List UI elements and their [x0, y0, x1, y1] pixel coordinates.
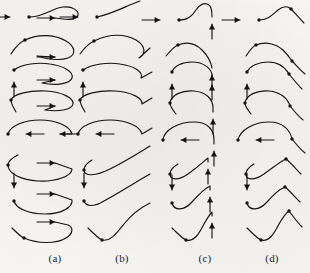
curve-panel-b-row2: [80, 35, 150, 58]
curve-panel-b-row5: [76, 120, 152, 137]
curve-panel-c-row1: [142, 4, 215, 39]
entry-arrow-icon-head: [5, 14, 10, 20]
curve-panel-c-row6: [168, 158, 211, 184]
exit-arrow-icon-head: [50, 191, 55, 197]
control-point-dot: [161, 138, 164, 141]
curve-stroke: [247, 187, 285, 209]
entry-arrow-icon-head: [11, 82, 17, 87]
curve-tail-stroke: [292, 139, 305, 153]
curve-stroke: [245, 91, 290, 114]
curve-stroke: [88, 203, 150, 240]
entry-arrow-icon-head: [80, 82, 86, 87]
control-point-dot: [27, 15, 30, 18]
curve-panel-a-row3: [11, 63, 72, 97]
curve-stroke: [12, 222, 72, 243]
control-point-dot: [284, 157, 287, 160]
curve-panel-a-row1: [0, 7, 78, 21]
control-point-dot: [287, 72, 290, 75]
curve-panel-c-row7: [169, 175, 213, 212]
curve-stroke: [247, 62, 289, 74]
exit-arrow-icon-head: [50, 160, 55, 166]
control-point-dot: [76, 132, 79, 135]
curve-panel-d-row6: [244, 157, 301, 179]
curve-stroke: [8, 120, 72, 134]
curve-tail-stroke: [292, 61, 305, 74]
curve-stroke: [8, 155, 72, 181]
control-point-dot: [283, 185, 286, 188]
column-label-a: (a): [35, 252, 75, 264]
curve-panel-b-row3: [80, 63, 152, 97]
curve-stroke: [172, 186, 210, 209]
curve-panel-a-row8: [12, 219, 72, 243]
curve-tail-stroke: [291, 9, 304, 23]
curve-stroke: [163, 122, 214, 144]
control-point-dot: [95, 15, 98, 18]
curve-stroke: [246, 43, 292, 61]
curve-panel-a-row4: [9, 91, 73, 112]
control-point-dot: [6, 132, 9, 135]
column-label-b: (b): [102, 252, 142, 264]
control-point-dot: [257, 18, 260, 21]
exit-arrow-icon-head: [209, 85, 215, 90]
entry-arrow-icon-head: [73, 14, 78, 20]
control-point-dot: [289, 7, 292, 10]
control-point-dot: [245, 70, 248, 73]
control-point-dot: [259, 238, 262, 241]
control-point-dot: [254, 43, 257, 46]
control-point-dot: [176, 43, 179, 46]
figure-panel-grid: (a) (b) (c) (d): [0, 0, 310, 273]
control-point-dot: [22, 236, 25, 239]
curve-tail-stroke: [289, 74, 302, 89]
curve-panel-c-row2: [166, 43, 215, 90]
curve-stroke: [97, 1, 140, 17]
control-point-dot: [9, 98, 12, 101]
control-point-dot: [236, 138, 239, 141]
entry-arrow-icon-head: [169, 185, 175, 190]
exit-arrow-icon-head: [210, 119, 216, 124]
curve-panel-c-row8: [172, 212, 215, 242]
control-point-dot: [82, 168, 85, 171]
control-point-dot: [23, 38, 26, 41]
control-point-dot: [6, 163, 9, 166]
control-point-dot: [82, 199, 85, 202]
curve-stroke: [11, 91, 73, 112]
curve-panel-b-row8: [88, 203, 150, 242]
curve-panel-d-row8: [247, 209, 302, 241]
exit-arrow-icon-head: [50, 15, 55, 21]
curve-panel-d-row4: [243, 91, 303, 120]
control-point-dot: [177, 18, 180, 21]
control-point-dot: [12, 199, 15, 202]
control-point-dot: [168, 172, 171, 175]
curve-tail-stroke: [290, 106, 303, 120]
curve-stroke: [84, 174, 150, 206]
entry-arrow-icon-head: [244, 185, 250, 190]
curve-stroke: [80, 35, 150, 58]
curve-stroke: [179, 4, 212, 20]
curve-stroke: [78, 120, 152, 134]
entry-arrow-icon-head: [81, 183, 87, 188]
control-point-dot: [170, 201, 173, 204]
curve-stroke: [166, 43, 212, 68]
curve-stroke: [246, 159, 286, 179]
entry-arrow-icon-head: [96, 131, 101, 137]
curve-stroke: [84, 146, 150, 175]
curve-stroke: [80, 91, 152, 112]
curve-stroke: [238, 122, 292, 140]
entry-arrow-icon-head: [256, 137, 261, 143]
curve-panel-d-row1: [222, 7, 304, 23]
curve-stroke: [172, 212, 212, 240]
control-point-dot: [290, 137, 293, 140]
curve-stroke: [14, 63, 72, 84]
entry-arrow-icon-head: [26, 131, 31, 137]
curve-panel-b-row4: [78, 91, 152, 112]
curve-canvas: [0, 0, 310, 273]
control-point-dot: [12, 68, 15, 71]
control-point-dot: [245, 201, 248, 204]
curve-panel-d-row7: [244, 175, 300, 209]
control-point-dot: [287, 209, 290, 212]
control-point-dot: [168, 101, 171, 104]
control-point-dot: [170, 70, 173, 73]
curve-panel-a-row6: [6, 155, 72, 181]
exit-arrow-icon-head: [207, 197, 213, 202]
column-label-c: (c): [185, 252, 225, 264]
